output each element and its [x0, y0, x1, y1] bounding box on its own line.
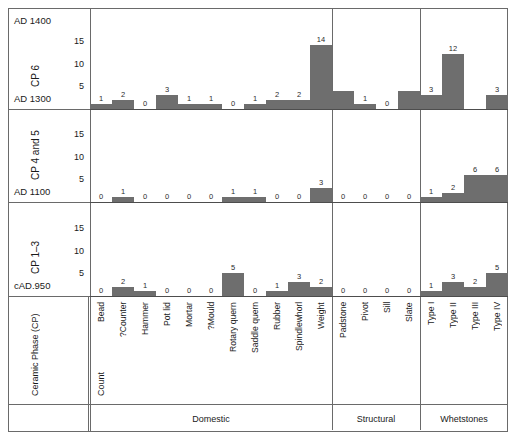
bar-value-cp6-5: 1 [200, 94, 222, 103]
bar-value-cp45-17: 6 [464, 165, 486, 174]
bar-value-cp45-8: 0 [266, 192, 288, 201]
era-label-bottom-cp45: AD 1100 [14, 186, 50, 197]
ytick-cp6-15: 15 [68, 36, 84, 46]
ytick-cp6-10: 10 [68, 59, 84, 69]
bar-value-cp13-14: 0 [398, 286, 420, 295]
ytick-cp45-5: 5 [68, 174, 84, 184]
bar-value-cp45-13: 0 [376, 192, 398, 201]
category-label-8: Rubber [272, 302, 282, 400]
bar-value-cp6-8: 2 [266, 90, 288, 99]
bar-cp6-1 [112, 100, 134, 109]
chart-root: AD 1400AD 1300CP 61510512031101221410312… [0, 0, 517, 441]
axis-title-ceramic-phase: Ceramic Phase (CP) [30, 304, 40, 396]
bar-value-cp45-2: 0 [134, 192, 156, 201]
category-label-12: Pivot [360, 302, 370, 400]
bar-value-cp45-18: 6 [486, 165, 508, 174]
bar-cp6-5 [200, 104, 222, 109]
bar-value-cp45-6: 1 [222, 187, 244, 196]
bar-value-cp6-4: 1 [178, 94, 200, 103]
bar-value-cp6-12: 1 [354, 94, 376, 103]
bar-cp13-8 [266, 291, 288, 296]
bar-cp6-0 [90, 104, 112, 109]
bar-value-cp45-9: 0 [288, 192, 310, 201]
bar-value-cp45-5: 0 [200, 192, 222, 201]
group-label-structural: Structural [332, 414, 420, 424]
era-label-bottom-cp6: AD 1300 [14, 93, 51, 104]
category-label-13: Sill [382, 302, 392, 400]
bar-value-cp45-7: 1 [244, 187, 266, 196]
baseline-cp45 [90, 202, 508, 203]
bar-cp6-12 [354, 104, 376, 109]
bar-value-cp6-0: 1 [90, 94, 112, 103]
phase-label-cp13: CP 1–3 [30, 224, 41, 274]
bar-value-cp6-2: 0 [134, 99, 156, 108]
bar-cp13-6 [222, 273, 244, 296]
ytick-cp13-5: 5 [68, 268, 84, 278]
category-label-2: Hammer [140, 302, 150, 400]
bar-cp6-7 [244, 104, 266, 109]
category-label-7: Saddle quern [250, 302, 260, 400]
bar-cp6-10 [310, 45, 332, 109]
category-label-3: Pot lid [162, 302, 172, 400]
bar-value-cp45-0: 0 [90, 192, 112, 201]
era-label-bottom-cp13: cAD.950 [14, 280, 50, 291]
ytick-cp45-10: 10 [68, 152, 84, 162]
bar-value-cp13-11: 0 [332, 286, 354, 295]
label-column-rule-1 [88, 296, 89, 432]
bar-value-cp13-13: 0 [376, 286, 398, 295]
bar-value-cp45-10: 3 [310, 178, 332, 187]
group-divider-whetstones [420, 8, 421, 430]
category-label-1: ?Counter [118, 302, 128, 400]
bar-value-cp13-7: 0 [244, 286, 266, 295]
group-label-domestic: Domestic [90, 414, 332, 424]
bar-value-cp45-11: 0 [332, 192, 354, 201]
group-divider-structural [332, 8, 333, 430]
bar-value-cp6-7: 1 [244, 94, 266, 103]
baseline-cp6 [90, 109, 508, 110]
count-axis-rule [90, 8, 91, 296]
category-label-15: Type I [426, 302, 436, 400]
bar-value-cp13-12: 0 [354, 286, 376, 295]
bar-cp6-14 [398, 91, 420, 109]
bar-cp45-6 [222, 197, 244, 202]
group-label-separator [8, 404, 508, 405]
bar-value-cp45-3: 0 [156, 192, 178, 201]
bar-cp6-15 [420, 95, 442, 109]
bar-cp13-17 [464, 287, 486, 296]
bar-value-cp6-18: 3 [486, 85, 508, 94]
era-label-top-cp6: AD 1400 [14, 15, 51, 26]
bar-cp6-18 [486, 95, 508, 109]
bar-cp6-3 [156, 95, 178, 109]
bar-value-cp6-9: 2 [288, 90, 310, 99]
bar-value-cp6-3: 3 [156, 85, 178, 94]
bar-value-cp13-17: 2 [464, 277, 486, 286]
bar-cp13-9 [288, 282, 310, 296]
bar-value-cp13-18: 5 [486, 263, 508, 272]
bar-cp45-1 [112, 197, 134, 202]
bar-value-cp6-15: 3 [420, 85, 442, 94]
bar-cp6-4 [178, 104, 200, 109]
bar-cp45-17 [464, 175, 486, 202]
category-label-9: Spindlewhorl [294, 302, 304, 400]
bar-value-cp45-4: 0 [178, 192, 200, 201]
category-label-6: Rotary quern [228, 302, 238, 400]
bar-value-cp13-16: 3 [442, 272, 464, 281]
bar-value-cp13-6: 5 [222, 263, 244, 272]
bar-value-cp13-5: 0 [200, 286, 222, 295]
category-label-11: Padstone [338, 302, 348, 400]
bar-value-cp45-15: 1 [420, 187, 442, 196]
category-label-0: Bead [96, 302, 106, 400]
bar-value-cp13-8: 1 [266, 281, 288, 290]
group-label-whetstones: Whetstones [420, 414, 508, 424]
bar-cp13-15 [420, 291, 442, 296]
bar-value-cp6-16: 12 [442, 44, 464, 53]
category-label-14: Slate [404, 302, 414, 400]
bar-cp13-10 [310, 287, 332, 296]
bar-value-cp45-14: 0 [398, 192, 420, 201]
bar-value-cp6-13: 0 [376, 99, 398, 108]
baseline-cp13 [90, 296, 508, 297]
bar-value-cp6-6: 0 [222, 99, 244, 108]
bar-value-cp13-15: 1 [420, 281, 442, 290]
bar-cp6-16 [442, 54, 464, 109]
bar-value-cp6-10: 14 [310, 35, 332, 44]
